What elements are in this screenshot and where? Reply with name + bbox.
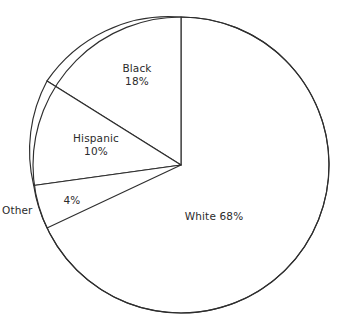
pie-label-black-name: Black [105,62,169,75]
pie-label-black-value: 18% [105,75,169,88]
pie-label-hispanic-name: Hispanic [60,132,132,145]
pie-label-black: Black 18% [105,62,169,87]
pie-label-other-value-wrap: 4% [56,194,88,207]
pie-chart: Black 18% Hispanic 10% 4% Other White 68… [0,0,338,330]
pie-label-other-name-wrap: Other [2,204,42,217]
pie-chart-canvas [0,0,338,330]
pie-label-other-name: Other [2,204,42,217]
pie-label-white-name: White 68% [185,210,244,222]
pie-label-hispanic: Hispanic 10% [60,132,132,157]
pie-label-other-value: 4% [56,194,88,207]
pie-label-hispanic-value: 10% [60,145,132,158]
pie-label-white: White 68% [171,210,257,223]
